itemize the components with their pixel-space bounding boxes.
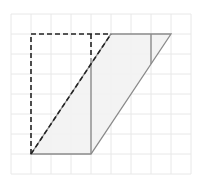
diagram-canvas (0, 0, 197, 185)
parallelogram-cut-diagram (0, 0, 197, 185)
